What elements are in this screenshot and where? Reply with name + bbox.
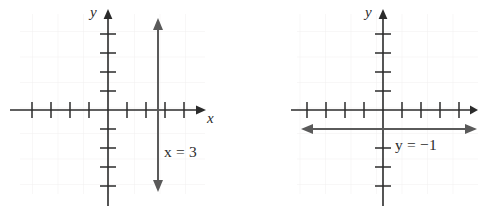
- coordinate-plane-right: [239, 0, 478, 208]
- figure-canvas: y x x = 3: [0, 0, 478, 208]
- x-axis-label-left: x: [207, 110, 214, 127]
- graph-panel-left: y x x = 3: [0, 0, 239, 208]
- equation-label-x-equals-3: x = 3: [164, 143, 197, 161]
- equation-label-y-equals-negative-1: y = −1: [395, 136, 437, 154]
- coordinate-plane-left: [0, 0, 239, 208]
- y-axis-label-left: y: [90, 4, 97, 21]
- graph-panel-right: y y = −1: [239, 0, 478, 208]
- y-axis-label-right: y: [365, 4, 372, 21]
